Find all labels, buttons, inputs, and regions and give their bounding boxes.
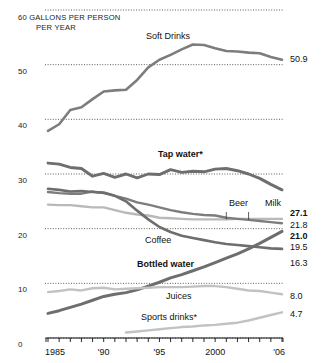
series-label-coffee: Coffee bbox=[145, 235, 171, 245]
y-tick-label-50: 50 bbox=[18, 67, 27, 76]
end-value-sports-drinks: 4.7 bbox=[290, 309, 303, 319]
series-line-juices bbox=[48, 286, 282, 294]
end-value-coffee: 16.3 bbox=[290, 258, 308, 268]
header-line-2: PER YEAR bbox=[36, 23, 76, 32]
chart-header-text: 60 GALLONS PER PERSONPER YEAR bbox=[18, 13, 121, 32]
series-label-juices: Juices bbox=[166, 291, 192, 301]
series-label-sports-drinks: Sports drinks* bbox=[141, 312, 198, 322]
series-end-values: 50.927.121.821.019.516.38.04.7 bbox=[290, 54, 308, 319]
data-lines-group bbox=[48, 44, 282, 332]
series-line-tap-water bbox=[48, 163, 282, 190]
beverage-consumption-chart: 01020304050 1985'90'952000'06 Soft Drink… bbox=[0, 0, 327, 363]
end-value-bottled-water: 19.5 bbox=[290, 242, 308, 252]
end-value-beer: 21.8 bbox=[290, 220, 308, 230]
series-label-milk: Milk bbox=[265, 198, 281, 208]
end-value-soft-drinks: 50.9 bbox=[290, 54, 308, 64]
series-label-tap-water: Tap water* bbox=[158, 149, 203, 159]
y-tick-label-20: 20 bbox=[18, 231, 27, 240]
header-line-1: 60 GALLONS PER PERSON bbox=[18, 13, 121, 22]
series-label-bottled-water: Bottled water bbox=[137, 259, 195, 269]
end-value-juices: 8.0 bbox=[290, 291, 303, 301]
y-tick-label-0: 0 bbox=[18, 340, 23, 349]
x-tick-label-1990: '90 bbox=[98, 347, 110, 357]
y-tick-label-40: 40 bbox=[18, 121, 27, 130]
series-label-soft-drinks: Soft Drinks bbox=[146, 31, 191, 41]
chart-plot-area: 01020304050 1985'90'952000'06 Soft Drink… bbox=[0, 0, 327, 363]
x-axis-tick-labels: 1985'90'952000'06 bbox=[45, 347, 285, 357]
x-tick-label-2000: 2000 bbox=[205, 347, 225, 357]
x-tick-label-2006: '06 bbox=[273, 347, 285, 357]
series-line-soft-drinks bbox=[48, 44, 282, 130]
x-axis-group bbox=[46, 338, 283, 342]
x-tick-label-1985: 1985 bbox=[45, 347, 65, 357]
y-axis-tick-labels: 01020304050 bbox=[18, 67, 27, 349]
y-tick-label-30: 30 bbox=[18, 176, 27, 185]
end-value-milk: 21.0 bbox=[290, 231, 308, 241]
y-tick-label-10: 10 bbox=[18, 285, 27, 294]
x-tick-label-1995: '95 bbox=[154, 347, 166, 357]
series-label-beer: Beer bbox=[229, 198, 248, 208]
end-value-tap-water: 27.1 bbox=[290, 208, 308, 218]
series-inline-labels: Soft DrinksTap water*BeerMilkCoffeeBottl… bbox=[137, 31, 281, 322]
